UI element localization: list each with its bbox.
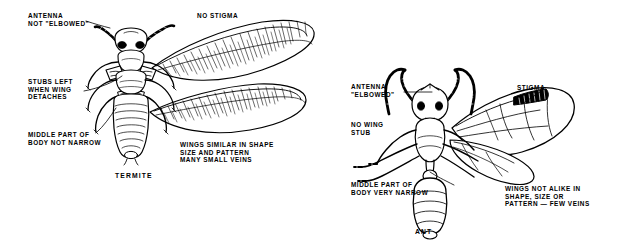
termite-caption: TERMITE	[115, 172, 153, 179]
ant-wing-stub-label: NO WING STUB	[351, 121, 384, 136]
termite-stigma-label: NO STIGMA	[197, 12, 238, 20]
termite-waist-label: MIDDLE PART OF BODY NOT NARROW	[28, 131, 101, 146]
ant-antenna-label: ANTENNA "ELBOWED"	[351, 83, 395, 98]
termite-antenna-label: ANTENNA NOT "ELBOWED"	[28, 12, 89, 27]
ant-stigma-label: STIGMA	[517, 84, 545, 92]
ant-thorax	[415, 118, 445, 162]
insect-comparison-figure	[0, 0, 640, 251]
termite-wings-label: WINGS SIMILAR IN SHAPE SIZE AND PATTERN …	[180, 141, 274, 164]
termite-wing-stub-label: STUBS LEFT WHEN WING DETACHES	[28, 78, 73, 101]
ant-caption: ANT	[415, 228, 432, 235]
ant-wings-label: WINGS NOT ALIKE IN SHAPE, SIZE OR PATTER…	[505, 185, 590, 208]
ant-waist-label: MIDDLE PART OF BODY VERY NARROW	[351, 181, 428, 196]
